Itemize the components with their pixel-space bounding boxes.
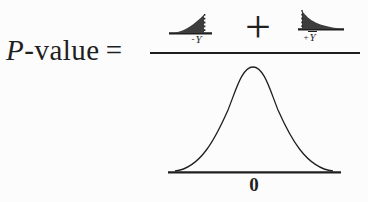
p-symbol: P [6,34,24,66]
fraction-bar [150,52,360,54]
equals-sign: = [106,34,123,66]
left-tail-label: -Y [184,33,210,45]
pvalue-formula-figure: P-value= -Y + +Y 0 [0,0,368,202]
plus-operator: + [239,1,277,53]
right-tail-variable: Y [308,31,316,43]
denominator-zero-label: 0 [244,174,264,196]
bell-curve-icon [165,62,343,176]
value-suffix: -value [24,34,99,66]
formula-lhs: P-value= [6,36,123,65]
left-tail-variable: Y [194,33,202,45]
right-tail-curve-icon [296,8,346,32]
right-tail-label: +Y [296,31,324,43]
